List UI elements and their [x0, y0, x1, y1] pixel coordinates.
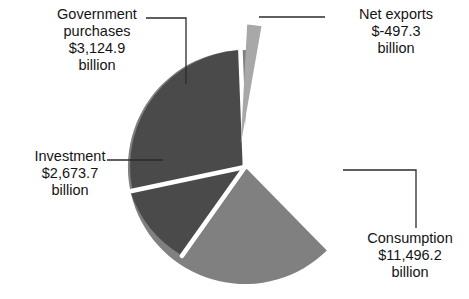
pie-label-net-exports: Net exports $-497.3 billion: [330, 6, 462, 57]
pie-label-consumption: Consumption $11,496.2 billion: [352, 230, 468, 281]
leader-line-consumption: [343, 170, 416, 228]
label-government-unit: billion: [24, 57, 170, 74]
pie-label-investment: Investment $2,673.7 billion: [4, 148, 136, 199]
label-government-name-cont: purchases: [24, 23, 170, 40]
pie-chart-figure: Government purchases $3,124.9 billion Ne…: [0, 0, 469, 299]
label-consumption-value: $11,496.2: [352, 247, 468, 264]
label-government-value: $3,124.9: [24, 40, 170, 57]
label-government-name: Government: [24, 6, 170, 23]
label-net-exports-name: Net exports: [330, 6, 462, 23]
label-consumption-name: Consumption: [352, 230, 468, 247]
label-consumption-unit: billion: [352, 264, 468, 281]
label-investment-name: Investment: [4, 148, 136, 165]
label-investment-value: $2,673.7: [4, 165, 136, 182]
label-investment-unit: billion: [4, 182, 136, 199]
label-net-exports-unit: billion: [330, 40, 462, 57]
label-net-exports-value: $-497.3: [330, 23, 462, 40]
pie-label-government-purchases: Government purchases $3,124.9 billion: [24, 6, 170, 74]
